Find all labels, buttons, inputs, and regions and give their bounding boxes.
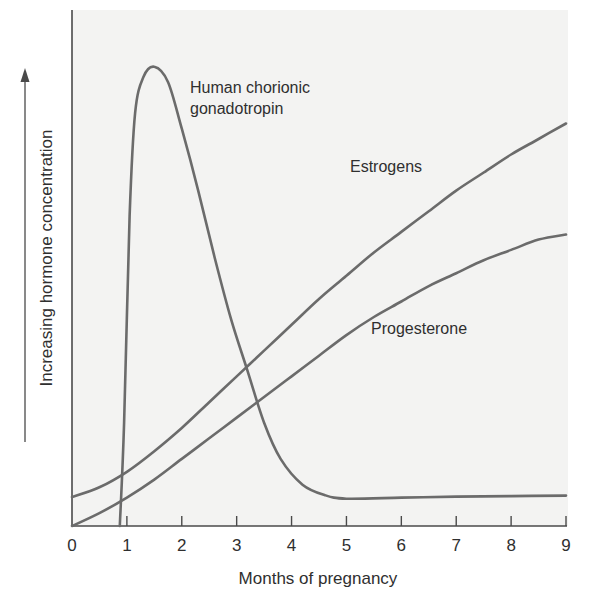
y-axis-title: Increasing hormone concentration xyxy=(37,129,56,386)
x-axis-title: Months of pregnancy xyxy=(239,569,398,588)
x-tick-label: 5 xyxy=(342,536,351,555)
hormone-concentration-chart: 0123456789 Human chorionic gonadotropin … xyxy=(0,0,595,607)
plot-area xyxy=(72,10,568,526)
progesterone-label: Progesterone xyxy=(371,320,467,337)
x-tick-label: 7 xyxy=(451,536,460,555)
hcg-label-line1: Human chorionic xyxy=(190,79,310,96)
x-tick-label: 9 xyxy=(561,536,570,555)
x-tick-label: 4 xyxy=(287,536,296,555)
chart-canvas: 0123456789 Human chorionic gonadotropin … xyxy=(0,0,595,607)
x-tick-label: 6 xyxy=(397,536,406,555)
x-tick-label: 2 xyxy=(177,536,186,555)
x-tick-label: 8 xyxy=(506,536,515,555)
estrogens-label: Estrogens xyxy=(350,158,422,175)
x-tick-label: 3 xyxy=(232,536,241,555)
x-tick-label: 0 xyxy=(67,536,76,555)
hcg-label-line2: gonadotropin xyxy=(190,100,283,117)
x-tick-label: 1 xyxy=(122,536,131,555)
arrow-up-icon xyxy=(21,68,30,82)
